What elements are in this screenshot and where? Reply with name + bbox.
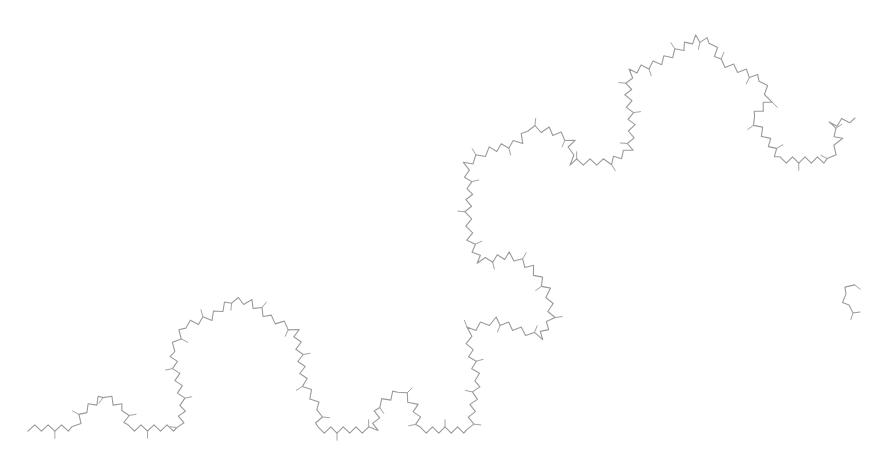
side-chain-bond — [458, 211, 465, 212]
polymer-backbone — [28, 35, 855, 433]
side-chain-bond — [166, 369, 173, 370]
side-chain-bond — [851, 313, 853, 320]
fragment-right-edge — [843, 285, 861, 320]
side-chain-bond — [535, 326, 538, 333]
side-chain-bond — [536, 286, 542, 290]
side-chain-bond — [634, 112, 641, 113]
side-chain-bond — [303, 353, 310, 354]
side-chain-bond — [772, 102, 777, 107]
side-chain-bond — [619, 83, 626, 84]
side-chain-bond — [73, 411, 79, 414]
side-chain-bond — [821, 155, 827, 158]
side-chain-bond — [472, 149, 476, 155]
side-chain-bond — [671, 43, 675, 49]
backbone-bonds — [843, 285, 861, 313]
side-chain-bond — [201, 310, 203, 317]
side-chain-bond — [262, 302, 266, 307]
side-chain-bond — [185, 397, 192, 398]
side-chain-bond — [474, 424, 481, 425]
side-chain-bond — [129, 414, 136, 415]
side-chain-bond — [555, 317, 562, 318]
side-chain-bond — [476, 359, 483, 361]
side-chain-bond — [99, 398, 103, 404]
side-chain-bond — [649, 69, 651, 76]
side-chain-bond — [535, 118, 536, 125]
side-chain-bond — [296, 387, 302, 391]
side-chain-bond — [509, 148, 511, 155]
side-chain-bond — [523, 253, 527, 259]
side-chain-bond — [493, 262, 495, 269]
side-chain-bond — [748, 125, 754, 129]
side-chain-bond — [620, 143, 627, 144]
side-chain-bond — [562, 140, 565, 146]
side-chain-bond — [323, 417, 330, 418]
side-chain-bond — [475, 241, 481, 244]
side-chain-bond — [409, 424, 416, 425]
side-chain-bond — [231, 303, 232, 310]
side-chain-bond — [472, 180, 479, 181]
side-chain-bond — [777, 145, 783, 149]
side-chain-bond — [465, 390, 472, 391]
molecule-diagram — [0, 0, 883, 464]
side-chain-bond — [612, 165, 616, 171]
side-chains — [55, 42, 842, 440]
side-chain-bond — [698, 42, 700, 49]
side-chain-bond — [464, 320, 466, 327]
side-chain-bond — [721, 52, 724, 59]
side-chain-bond — [170, 427, 177, 428]
side-chain-bond — [181, 339, 187, 342]
side-chain-bond — [380, 408, 384, 414]
side-chain-bond — [497, 325, 500, 332]
side-chain-bond — [855, 285, 861, 289]
side-chain-bond — [746, 78, 749, 84]
side-chain-bond — [407, 388, 412, 393]
side-chain-bond — [285, 330, 288, 336]
backbone-bonds — [28, 35, 855, 433]
